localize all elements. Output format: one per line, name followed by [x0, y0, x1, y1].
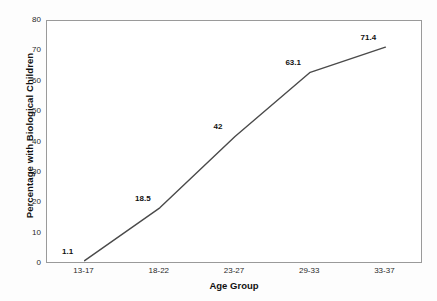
y-tick-label: 50: [18, 107, 41, 115]
y-tick-label: 30: [18, 168, 41, 176]
x-axis-tick-labels: 13-1718-2223-2729-3333-37: [46, 266, 422, 280]
data-point-label: 63.1: [285, 58, 301, 67]
x-tick-label: 29-33: [272, 266, 347, 280]
x-tick-label: 23-27: [196, 266, 271, 280]
y-tick-label: 80: [18, 16, 41, 24]
plot-area: [46, 20, 422, 263]
y-tick-label: 40: [18, 138, 41, 146]
data-point-label: 42: [214, 122, 223, 131]
line-series-path: [85, 47, 386, 261]
y-tick-label: 70: [18, 46, 41, 54]
data-point-label: 1.1: [62, 246, 73, 255]
data-point-label: 18.5: [135, 193, 151, 202]
x-tick-label: 18-22: [121, 266, 196, 280]
data-point-label: 71.4: [361, 33, 377, 42]
x-tick-label: 13-17: [46, 266, 121, 280]
y-tick-label: 0: [18, 259, 41, 267]
y-tick-label: 20: [18, 198, 41, 206]
y-tick-label: 60: [18, 77, 41, 85]
y-tick-label: 10: [18, 229, 41, 237]
chart-figure: Percentage with Biological Children 8070…: [0, 0, 437, 301]
line-series-svg: [47, 21, 423, 264]
x-axis-title: Age Group: [46, 280, 422, 291]
x-tick-label: 33-37: [347, 266, 422, 280]
y-axis-tick-labels: 80706050403020100: [18, 0, 41, 301]
